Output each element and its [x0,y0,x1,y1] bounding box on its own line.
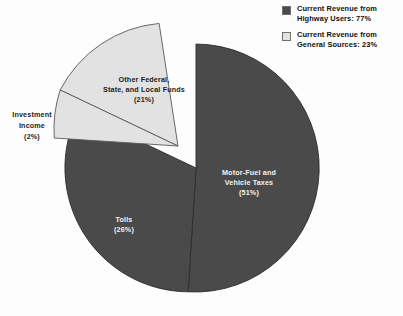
slice-label-line2: State, and Local Funds [103,85,185,94]
legend-label-line1: Current Revenue from [297,4,377,13]
slice-label-line1: Tolls [116,215,133,224]
slice-label-line1: Investment [12,110,52,119]
slice-label-line2: Income [19,121,45,130]
pie-chart-figure: Motor-Fuel and Vehicle Taxes (51%) Tolls… [0,0,403,316]
legend-label-highway-users: Current Revenue from Highway Users: 77% [297,4,377,23]
slice-label-line3: (2%) [24,132,40,141]
legend-label-line1: Current Revenue from [297,30,377,39]
legend-item-general-sources[interactable]: Current Revenue from General Sources: 23… [282,30,400,49]
slice-label-line3: (21%) [134,95,154,104]
legend-swatch-icon-highway-users [282,6,291,15]
slice-label-tolls: Tolls (26%) [114,215,134,234]
legend-label-general-sources: Current Revenue from General Sources: 23… [297,30,377,49]
legend-label-line2: Highway Users: 77% [297,14,377,24]
slice-label-line1: Other Federal, [119,75,170,84]
slice-label-investment-income: Investment Income (2%) [12,110,52,141]
legend-label-line2: General Sources: 23% [297,40,377,50]
legend-item-highway-users[interactable]: Current Revenue from Highway Users: 77% [282,4,400,23]
chart-legend: Current Revenue from Highway Users: 77% … [282,4,400,56]
slice-label-line3: (51%) [239,188,259,197]
slice-label-line2: Vehicle Taxes [225,178,274,187]
legend-swatch-icon-general-sources [282,32,291,41]
slice-label-line1: Motor-Fuel and [222,168,276,177]
slice-label-line2: (26%) [114,225,134,234]
